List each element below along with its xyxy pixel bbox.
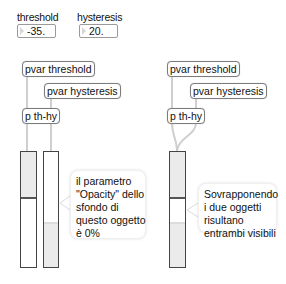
right-subpatch-object[interactable]: p th-hy bbox=[167, 108, 205, 124]
left-slider-hysteresis[interactable] bbox=[43, 151, 59, 268]
slider-knob-line bbox=[44, 222, 58, 224]
hysteresis-value: 20. bbox=[89, 25, 104, 37]
slider-knob-line bbox=[170, 222, 185, 224]
right-pvar-threshold-object[interactable]: pvar threshold bbox=[167, 61, 240, 77]
comment-line: sfondo di bbox=[76, 201, 140, 214]
threshold-label: threshold bbox=[17, 11, 58, 23]
comment-line: il parametro bbox=[76, 175, 140, 188]
left-comment-bubble: il parametro "Opacity" dello sfondo di q… bbox=[70, 170, 146, 239]
number-arrow-icon bbox=[20, 27, 24, 35]
comment-line: "Opacity" dello bbox=[76, 188, 140, 201]
slider-fill bbox=[44, 223, 58, 267]
number-arrow-icon bbox=[82, 27, 86, 35]
comment-line: questo oggetto bbox=[76, 214, 140, 227]
slider-knob-line bbox=[170, 197, 185, 199]
right-pvar-hysteresis-object[interactable]: pvar hysteresis bbox=[190, 83, 267, 99]
threshold-value: -35. bbox=[27, 25, 45, 37]
left-subpatch-object[interactable]: p th-hy bbox=[22, 108, 60, 124]
slider-fill-bottom bbox=[170, 223, 185, 267]
left-pvar-hysteresis-object[interactable]: pvar hysteresis bbox=[44, 83, 121, 99]
left-slider-threshold[interactable] bbox=[20, 151, 37, 268]
slider-knob-line bbox=[21, 197, 36, 199]
comment-line: è 0% bbox=[76, 227, 140, 240]
right-comment-bubble: Sovrapponendo i due oggetti risultano en… bbox=[198, 183, 277, 233]
hysteresis-label: hysteresis bbox=[77, 11, 122, 23]
comment-line: i due oggetti bbox=[204, 201, 271, 214]
comment-line: risultano bbox=[204, 214, 271, 227]
slider-fill bbox=[21, 152, 36, 198]
comment-line: entrambi visibili bbox=[204, 227, 271, 240]
threshold-number-box[interactable]: -35. bbox=[17, 24, 56, 38]
slider-fill-top bbox=[170, 152, 185, 198]
left-pvar-threshold-object[interactable]: pvar threshold bbox=[22, 61, 95, 77]
right-overlapped-sliders[interactable] bbox=[169, 151, 186, 268]
comment-line: Sovrapponendo bbox=[204, 188, 271, 201]
hysteresis-number-box[interactable]: 20. bbox=[79, 24, 118, 38]
